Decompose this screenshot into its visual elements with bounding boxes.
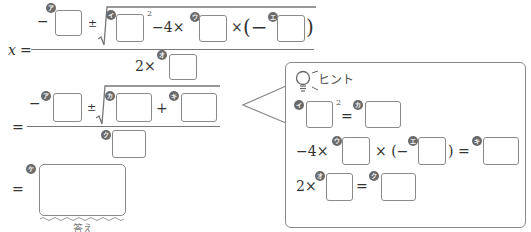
badge-ke: ケ <box>26 164 36 174</box>
badge-o: オ <box>315 171 325 181</box>
squared-exponent: 2 <box>147 10 152 18</box>
equals-sign: = <box>20 42 32 58</box>
times-sign: × <box>231 19 243 35</box>
badge-ki: キ <box>169 91 179 101</box>
hint-panel: ヒント イ 2 = カ −4× ウ × (− エ ) = キ 2× オ = ク <box>285 62 526 228</box>
badge-o: オ <box>157 50 167 60</box>
fraction-bar <box>31 49 314 50</box>
input-box-a[interactable] <box>55 10 82 36</box>
hint-input-box-o[interactable] <box>326 173 353 201</box>
minus-four-times: −4× <box>152 19 184 35</box>
hint-input-box-ki[interactable] <box>483 137 519 165</box>
squared-exponent: 2 <box>336 99 341 107</box>
input-box-ka[interactable] <box>116 93 152 122</box>
lightbulb-icon <box>295 70 319 94</box>
badge-i: イ <box>294 100 304 110</box>
hint-input-box-ka[interactable] <box>365 101 401 128</box>
answer-label: 答え <box>73 220 93 232</box>
badge-e: エ <box>408 136 418 146</box>
badge-ku: ク <box>101 130 111 140</box>
equals-sign: = <box>341 108 353 124</box>
plus-minus-sign: ± <box>88 16 97 32</box>
plus-minus-sign: ± <box>87 100 96 116</box>
input-box-o[interactable] <box>169 54 197 80</box>
badge-ku: ク <box>369 171 379 181</box>
badge-ka: カ <box>105 91 115 101</box>
speech-bubble-tail <box>241 85 287 125</box>
two-times: 2× <box>296 178 317 194</box>
times-paren: × (− <box>375 143 408 159</box>
badge-a: ア <box>41 91 51 101</box>
close-paren: ) <box>306 15 314 39</box>
close-paren-equals: ) = <box>448 143 470 159</box>
hint-input-box-u[interactable] <box>342 137 370 165</box>
minus-sign: − <box>29 95 41 111</box>
variable-x: x <box>8 42 16 58</box>
equals-sign: = <box>356 178 368 194</box>
badge-u: ウ <box>332 136 342 146</box>
input-box-e[interactable] <box>277 15 305 42</box>
badge-i: イ <box>106 10 116 20</box>
open-paren-minus: (− <box>243 15 268 39</box>
input-box-ku[interactable] <box>112 130 146 158</box>
equals-sign: = <box>12 119 24 135</box>
input-box-i[interactable] <box>116 14 144 42</box>
answer-box[interactable] <box>39 164 126 216</box>
minus-sign: − <box>37 13 49 29</box>
hint-input-box-ku[interactable] <box>381 173 416 201</box>
input-box-u[interactable] <box>199 15 227 42</box>
input-box-a-2[interactable] <box>53 93 82 122</box>
hint-input-box-i[interactable] <box>306 101 333 128</box>
badge-ki: キ <box>472 136 482 146</box>
badge-ka: カ <box>353 100 363 110</box>
two-times: 2× <box>135 58 156 74</box>
hint-title: ヒント <box>318 70 354 87</box>
hint-input-box-e[interactable] <box>418 137 446 165</box>
equals-sign: = <box>12 181 24 197</box>
input-box-ki[interactable] <box>181 93 217 122</box>
minus-four-times: −4× <box>296 143 328 159</box>
plus-sign: + <box>156 100 168 116</box>
fraction-bar <box>27 126 220 127</box>
